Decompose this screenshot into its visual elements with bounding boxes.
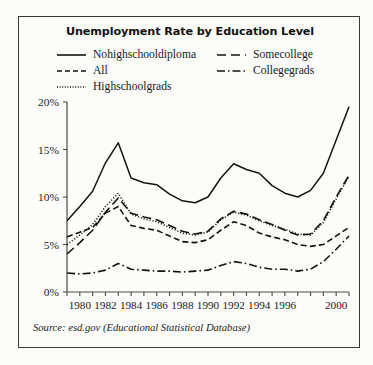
- chart-frame: Unemployment Rate by Education Level Noh…: [18, 16, 360, 348]
- y-axis-tick-label: 5%: [44, 239, 60, 251]
- y-axis-tick-label: 10%: [38, 191, 59, 203]
- x-axis-tick-label: 1986: [146, 299, 169, 311]
- x-axis-tick-label: 1982: [94, 299, 116, 311]
- series-lines: [67, 107, 349, 274]
- series-line-collegegrads: [67, 236, 349, 274]
- series-line-somecollege: [67, 175, 349, 254]
- x-axis: 1980198219841986198819901992199419962000: [67, 292, 349, 311]
- x-axis-tick-label: 1980: [69, 299, 92, 311]
- x-axis-tick-label: 2000: [325, 299, 348, 311]
- plot-area: 0%5%10%15%20% 19801982198419861988199019…: [19, 17, 361, 349]
- x-axis-tick-label: 1990: [197, 299, 220, 311]
- source-note: Source: esd.gov (Educational Statistical…: [33, 322, 250, 333]
- y-axis-tick-label: 20%: [38, 96, 59, 108]
- series-line-nohighschooldiploma: [67, 107, 349, 221]
- x-axis-tick-label: 1996: [274, 299, 297, 311]
- y-axis-tick-label: 0%: [44, 286, 60, 298]
- y-axis: 0%5%10%15%20%: [38, 96, 67, 298]
- x-axis-tick-label: 1988: [171, 299, 194, 311]
- x-axis-tick-label: 1984: [120, 299, 143, 311]
- plot-svg: 0%5%10%15%20% 19801982198419861988199019…: [19, 17, 361, 349]
- screenshot-page: Unemployment Rate by Education Level Noh…: [0, 0, 373, 365]
- y-axis-tick-label: 15%: [38, 144, 59, 156]
- x-axis-tick-label: 1994: [248, 299, 271, 311]
- series-line-all: [67, 207, 349, 247]
- x-axis-tick-label: 1992: [222, 299, 244, 311]
